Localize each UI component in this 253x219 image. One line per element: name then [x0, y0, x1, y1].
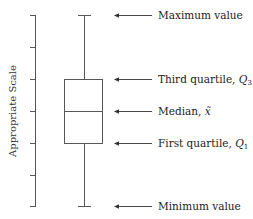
annotation-q1: First quartile, Q1	[114, 137, 248, 151]
label-minimum: Minimum value	[158, 200, 241, 212]
arrow-left-icon	[114, 77, 119, 81]
label-first-quartile: First quartile, Q1	[158, 137, 248, 151]
box	[65, 80, 103, 144]
annotation-median: Median, x̃	[114, 105, 211, 117]
y-axis-label: Appropriate Scale	[7, 65, 18, 158]
label-third-quartile: Third quartile, Q3	[158, 73, 252, 87]
label-maximum: Maximum value	[158, 9, 243, 21]
annotation-min: Minimum value	[114, 200, 241, 212]
label-median: Median, x̃	[158, 105, 211, 117]
arrow-left-icon	[114, 141, 119, 145]
box-plot-diagram: Appropriate Scale Maximum value Third qu…	[0, 0, 253, 219]
y-axis	[30, 15, 36, 207]
arrow-left-icon	[114, 204, 119, 208]
arrow-left-icon	[114, 13, 119, 17]
annotation-q3: Third quartile, Q3	[114, 73, 252, 87]
arrow-left-icon	[114, 109, 119, 113]
y-axis-ticks	[30, 16, 36, 207]
annotation-max: Maximum value	[114, 9, 243, 21]
